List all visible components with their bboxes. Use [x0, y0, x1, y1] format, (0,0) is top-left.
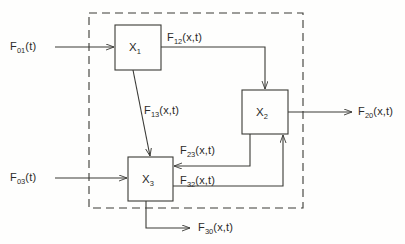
flow-label-f23: F23(x,t): [180, 144, 215, 159]
block-label-x3: X3: [142, 173, 154, 188]
flow-label-f01: F01(t): [10, 40, 36, 55]
block-label-x1: X1: [129, 41, 141, 56]
diagram-canvas: [0, 0, 405, 244]
flow-label-f13: F13(x,t): [144, 104, 179, 119]
flow-label-f20: F20(x,t): [358, 105, 393, 120]
arrow-f12: [161, 47, 265, 89]
arrow-f30: [146, 201, 190, 228]
flow-label-f32: F32(x,t): [180, 174, 215, 189]
flow-label-f12: F12(x,t): [167, 31, 202, 46]
flow-label-f30: F30(x,t): [198, 221, 233, 236]
flow-label-f03: F03(t): [10, 171, 36, 186]
block-label-x2: X2: [256, 106, 268, 121]
flow-diagram: X1 X2 X3 F01(t) F03(t) F12(x,t) F13(x,t)…: [0, 0, 405, 244]
